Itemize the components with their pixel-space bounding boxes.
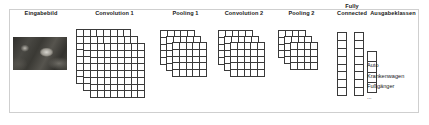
feature-map-stack-conv2 xyxy=(214,10,274,114)
output-class-item: ... xyxy=(367,92,404,103)
feature-map-stack-conv1 xyxy=(72,10,157,114)
feature-map-plane xyxy=(90,43,145,98)
stage-input: Eingabebild xyxy=(10,10,72,112)
output-class-item: Auto xyxy=(367,60,404,71)
feature-map-plane xyxy=(172,42,207,77)
output-class-legend: Auto Krankenwagen Fußgänger ... xyxy=(367,60,404,102)
feature-map-plane xyxy=(290,42,318,70)
stage-label-output-classes: Ausgabeklassen xyxy=(365,10,421,17)
stage-label-input: Eingabebild xyxy=(10,10,72,17)
feature-map-stack-pool2 xyxy=(274,10,329,114)
stage-conv2: Convolution 2 xyxy=(214,10,274,112)
feature-map-stack-pool1 xyxy=(157,10,214,114)
stage-conv1: Convolution 1 xyxy=(72,10,157,112)
fully-connected-vector xyxy=(354,32,364,96)
input-image-thumbnail xyxy=(13,37,67,70)
cnn-architecture-figure: Eingabebild Convolution 1 Pooling 1 Conv… xyxy=(9,9,419,113)
stage-pool1: Pooling 1 xyxy=(157,10,214,112)
output-class-item: Fußgänger xyxy=(367,81,404,92)
output-class-item: Krankenwagen xyxy=(367,71,404,82)
stage-pool2: Pooling 2 xyxy=(274,10,329,112)
feature-map-plane xyxy=(230,42,265,77)
fully-connected-vector xyxy=(337,32,347,96)
